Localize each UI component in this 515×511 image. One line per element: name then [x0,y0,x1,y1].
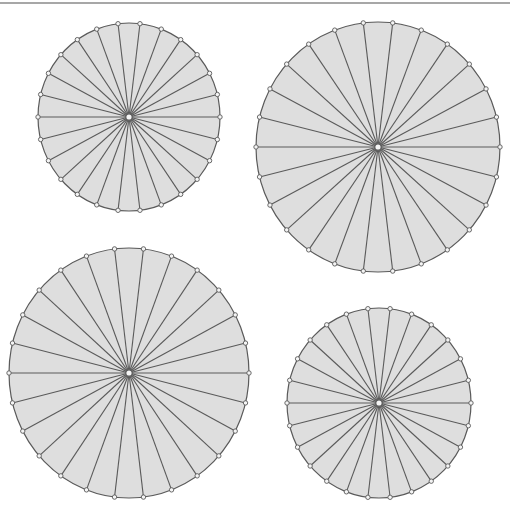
vertex-marker-icon [257,175,261,179]
vertex-marker-icon [254,145,258,149]
vertex-marker-icon [429,479,433,483]
vertex-marker-icon [59,268,63,272]
vertex-marker-icon [169,254,173,258]
vertex-marker-icon [388,495,392,499]
vertex-marker-icon [285,401,289,405]
vertex-marker-icon [195,52,199,56]
vertex-marker-icon [344,490,348,494]
vertex-marker-icon [284,228,288,232]
vertex-marker-icon [419,28,423,32]
vertex-marker-icon [333,28,337,32]
vertex-marker-icon [217,288,221,292]
vertex-marker-icon [284,62,288,66]
vertex-marker-icon [178,192,182,196]
vertex-marker-icon [409,312,413,316]
vertex-marker-icon [141,247,145,251]
vertex-marker-icon [159,203,163,207]
vertex-marker-icon [178,37,182,41]
vertex-marker-icon [419,262,423,266]
vertex-marker-icon [37,454,41,458]
vertex-marker-icon [366,495,370,499]
diagram-canvas [0,0,515,511]
vertex-marker-icon [59,52,63,56]
vertex-marker-icon [159,27,163,31]
vertex-marker-icon [469,401,473,405]
vertex-marker-icon [308,464,312,468]
vertex-marker-icon [325,479,329,483]
hub-marker-icon [126,114,132,120]
vertex-marker-icon [446,338,450,342]
vertex-marker-icon [138,208,142,212]
vertex-marker-icon [195,268,199,272]
hub-marker-icon [375,144,381,150]
vertex-marker-icon [195,177,199,181]
vertex-marker-icon [37,288,41,292]
vertex-marker-icon [268,87,272,91]
vertex-marker-icon [116,208,120,212]
vertex-marker-icon [366,306,370,310]
vertex-marker-icon [445,42,449,46]
vertex-marker-icon [112,495,116,499]
vertex-marker-icon [445,248,449,252]
wheel-bottom-left [7,247,251,500]
vertex-marker-icon [10,401,14,405]
vertex-marker-icon [484,87,488,91]
vertex-marker-icon [195,474,199,478]
vertex-marker-icon [116,21,120,25]
vertex-marker-icon [75,192,79,196]
vertex-marker-icon [307,42,311,46]
hub-marker-icon [376,400,382,406]
vertex-marker-icon [467,228,471,232]
vertex-marker-icon [138,21,142,25]
vertex-marker-icon [494,175,498,179]
vertex-marker-icon [257,115,261,119]
vertex-marker-icon [243,401,247,405]
vertex-marker-icon [333,262,337,266]
vertex-marker-icon [84,488,88,492]
vertex-marker-icon [95,27,99,31]
vertex-marker-icon [467,62,471,66]
vertex-marker-icon [7,371,11,375]
vertex-marker-icon [429,323,433,327]
vertex-marker-icon [38,92,42,96]
vertex-marker-icon [243,341,247,345]
vertex-marker-icon [391,269,395,273]
vertex-marker-icon [218,115,222,119]
vertex-marker-icon [21,313,25,317]
vertex-marker-icon [409,490,413,494]
wheel-bottom-right [285,306,473,499]
vertex-marker-icon [59,474,63,478]
vertex-marker-icon [325,323,329,327]
vertex-marker-icon [233,313,237,317]
vertex-marker-icon [287,378,291,382]
wheel-top-right [254,21,502,274]
vertex-marker-icon [494,115,498,119]
vertex-marker-icon [84,254,88,258]
vertex-marker-icon [59,177,63,181]
vertex-marker-icon [38,137,42,141]
vertex-marker-icon [95,203,99,207]
vertex-marker-icon [247,371,251,375]
vertex-marker-icon [287,424,291,428]
spoke-wheels-figure [0,0,515,511]
vertex-marker-icon [388,306,392,310]
vertex-marker-icon [233,429,237,433]
wheel-top-left [36,21,222,212]
vertex-marker-icon [307,248,311,252]
vertex-marker-icon [295,445,299,449]
vertex-marker-icon [466,424,470,428]
vertex-marker-icon [112,247,116,251]
vertex-marker-icon [169,488,173,492]
vertex-marker-icon [10,341,14,345]
vertex-marker-icon [391,21,395,25]
vertex-marker-icon [207,71,211,75]
vertex-marker-icon [308,338,312,342]
vertex-marker-icon [484,203,488,207]
vertex-marker-icon [207,158,211,162]
vertex-marker-icon [21,429,25,433]
vertex-marker-icon [361,269,365,273]
vertex-marker-icon [295,357,299,361]
vertex-marker-icon [458,357,462,361]
vertex-marker-icon [215,92,219,96]
wheel-group [7,21,502,500]
